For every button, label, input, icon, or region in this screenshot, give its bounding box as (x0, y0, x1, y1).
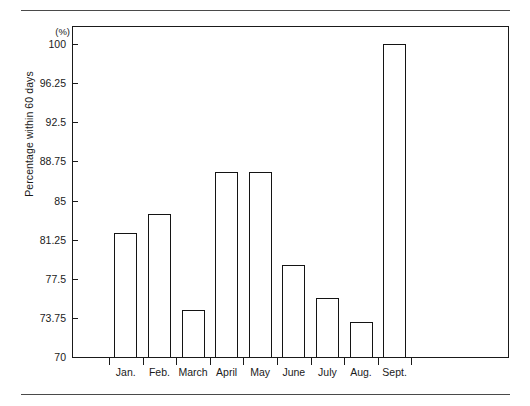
y-axis-tick-mark (72, 279, 78, 280)
y-axis-tick-mark (72, 201, 78, 202)
y-axis-tick-mark (72, 44, 78, 45)
y-axis-tick-label: 70 (22, 352, 66, 362)
y-axis-tick-label: 96.25 (22, 78, 66, 88)
bar-july (316, 298, 339, 357)
y-axis-tick-label: 81.25 (22, 235, 66, 245)
bar-chart-figure: (%) Percentage within 60 days 7073.7577.… (0, 0, 530, 406)
y-axis-tick-mark (72, 122, 78, 123)
x-axis-tick-mark (143, 357, 144, 365)
y-axis-tick-mark (72, 161, 78, 162)
x-axis-tick-label: Sept. (365, 366, 425, 378)
y-axis-tick-label: 73.75 (22, 313, 66, 323)
bar-may (249, 172, 272, 357)
x-axis-tick-mark (176, 357, 177, 365)
y-axis-tick-label: 88.75 (22, 156, 66, 166)
y-axis-tick-label: 100 (22, 39, 66, 49)
bar-feb (148, 214, 171, 357)
x-axis-tick-mark (378, 357, 379, 365)
x-axis-tick-mark (411, 357, 412, 365)
bar-march (182, 310, 205, 357)
x-axis-tick-mark (344, 357, 345, 365)
x-axis-tick-mark (277, 357, 278, 365)
bar-sept (383, 44, 406, 357)
bar-june (282, 265, 305, 357)
y-axis-tick-mark (72, 318, 78, 319)
bar-aug (350, 322, 373, 357)
bar-jan (114, 233, 137, 357)
x-axis-tick-mark (311, 357, 312, 365)
y-axis-tick-label: 92.5 (22, 117, 66, 127)
y-axis-tick-mark (72, 83, 78, 84)
x-axis-tick-mark (109, 357, 110, 365)
x-axis-tick-mark (210, 357, 211, 365)
bottom-divider-rule (21, 394, 510, 395)
bar-april (215, 172, 238, 357)
y-axis-tick-label: 77.5 (22, 274, 66, 284)
y-axis-tick-label: 85 (22, 196, 66, 206)
y-axis-unit-label: (%) (44, 26, 70, 37)
y-axis-tick-mark (72, 240, 78, 241)
x-axis-tick-mark (243, 357, 244, 365)
top-divider-rule (21, 10, 510, 11)
